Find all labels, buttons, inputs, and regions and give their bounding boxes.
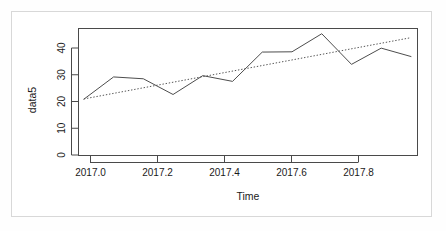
x-tick-label-2017-0: 2017.0: [75, 167, 106, 178]
x-tick-label-2017-6: 2017.6: [276, 167, 307, 178]
plot-canvas: 0 10 20 30 40 data5 2017.0 2017.2 2017.4…: [0, 0, 446, 231]
plot-series-group: [84, 34, 411, 99]
y-tick-label-10: 10: [56, 122, 67, 134]
chart-screenshot: 0 10 20 30 40 data5 2017.0 2017.2 2017.4…: [0, 0, 446, 231]
y-axis-title: data5: [26, 87, 38, 113]
y-tick-label-20: 20: [56, 96, 67, 108]
y-tick-label-0: 0: [56, 152, 67, 158]
x-tick-label-2017-8: 2017.8: [343, 167, 374, 178]
x-axis: 2017.0 2017.2 2017.4 2017.6 2017.8: [75, 156, 374, 178]
plot-box: [79, 29, 418, 156]
y-tick-label-40: 40: [56, 42, 67, 54]
y-tick-label-30: 30: [56, 69, 67, 81]
x-tick-label-2017-2: 2017.2: [142, 167, 173, 178]
y-axis: 0 10 20 30 40: [56, 42, 78, 158]
x-axis-title: Time: [237, 190, 260, 202]
x-tick-label-2017-4: 2017.4: [209, 167, 240, 178]
trend-line: [84, 38, 411, 99]
data-series-line: [84, 34, 411, 99]
